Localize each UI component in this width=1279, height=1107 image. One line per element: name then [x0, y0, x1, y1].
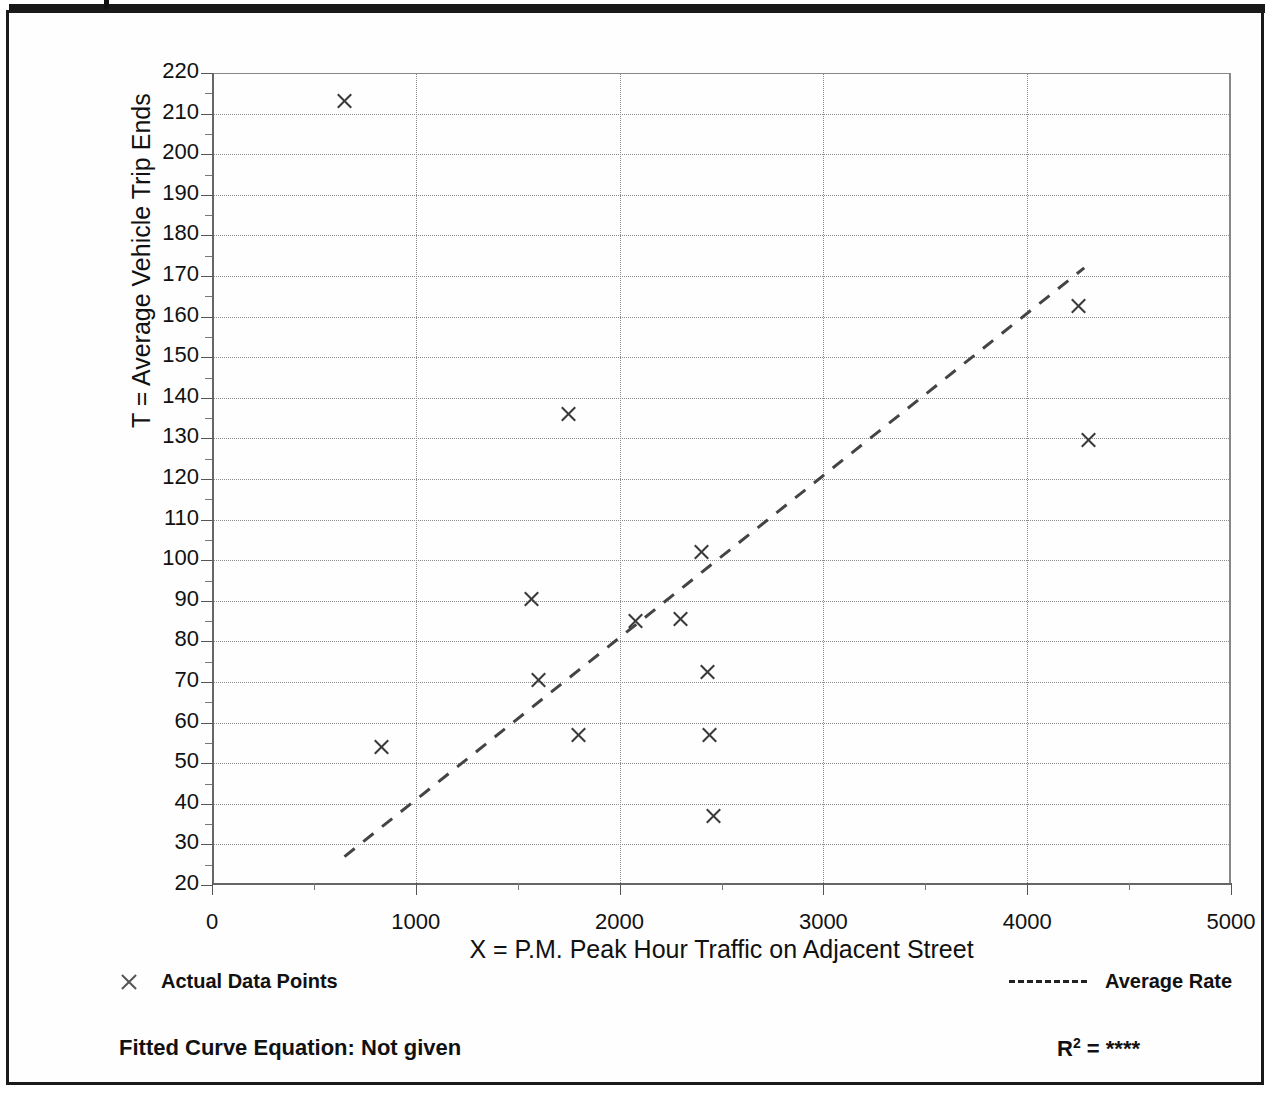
y-axis-tick-label: 120 — [109, 464, 199, 490]
y-axis-minor-tick — [205, 296, 212, 297]
gridline-horizontal — [212, 641, 1231, 642]
x-marker-icon — [119, 972, 139, 992]
y-axis-minor-tick — [205, 824, 212, 825]
fitted-curve-equation-text: Fitted Curve Equation: Not given — [119, 1035, 461, 1061]
gridline-horizontal — [212, 195, 1231, 196]
y-axis-tick — [201, 357, 212, 358]
data-point-marker — [1069, 297, 1088, 316]
gridline-horizontal — [212, 479, 1231, 480]
y-axis-minor-tick — [205, 134, 212, 135]
y-axis-tick — [201, 398, 212, 399]
y-axis-tick — [201, 154, 212, 155]
y-axis-minor-tick — [205, 378, 212, 379]
y-axis-tick-label: 220 — [109, 58, 199, 84]
gridline-horizontal — [212, 682, 1231, 683]
gridline-vertical — [1027, 73, 1028, 885]
legend-entry-average-rate[interactable]: Average Rate — [1009, 970, 1232, 993]
y-axis-tick-label: 100 — [109, 545, 199, 571]
x-axis-minor-tick — [722, 883, 723, 890]
y-axis-tick — [201, 804, 212, 805]
y-axis-minor-tick — [205, 215, 212, 216]
y-axis-minor-tick — [205, 337, 212, 338]
x-axis-minor-tick — [925, 883, 926, 890]
y-axis-tick — [201, 235, 212, 236]
y-axis-tick-label: 50 — [109, 748, 199, 774]
trendline-segment — [344, 268, 1084, 857]
y-axis-tick — [201, 114, 212, 115]
y-axis-tick — [201, 276, 212, 277]
y-axis-tick — [201, 844, 212, 845]
x-axis-tick — [416, 883, 417, 895]
r-squared-value: = **** — [1087, 1036, 1140, 1061]
x-axis-minor-tick — [1129, 883, 1130, 890]
axis-top-spine — [212, 73, 1231, 74]
data-point-marker — [529, 670, 548, 689]
x-axis-tick-label: 3000 — [763, 909, 883, 935]
y-axis-tick — [201, 723, 212, 724]
y-axis-title: T = Average Vehicle Trip Ends — [127, 93, 156, 428]
x-axis-tick-label: 2000 — [560, 909, 680, 935]
y-axis-tick-label: 90 — [109, 586, 199, 612]
y-axis-minor-tick — [205, 662, 212, 663]
legend-entry-data-points[interactable]: Actual Data Points — [119, 970, 338, 993]
y-axis-tick-label: 20 — [109, 870, 199, 896]
y-axis-minor-tick — [205, 499, 212, 500]
r-squared-symbol: R — [1057, 1036, 1073, 1061]
y-axis-minor-tick — [205, 175, 212, 176]
y-axis-tick — [201, 73, 212, 74]
y-axis-tick — [201, 560, 212, 561]
y-axis-minor-tick — [205, 621, 212, 622]
y-axis-tick-label: 80 — [109, 626, 199, 652]
page-top-mark — [104, 0, 109, 9]
y-axis-minor-tick — [205, 256, 212, 257]
y-axis-tick-label: 110 — [109, 505, 199, 531]
gridline-horizontal — [212, 520, 1231, 521]
y-axis-tick — [201, 438, 212, 439]
gridline-horizontal — [212, 114, 1231, 115]
y-axis-tick — [201, 763, 212, 764]
y-axis-tick — [201, 520, 212, 521]
data-point-marker — [569, 725, 588, 744]
plot-area: 2030405060708090100110120130140150160170… — [212, 73, 1231, 885]
y-axis-tick — [201, 885, 212, 886]
r-squared-exponent: 2 — [1073, 1035, 1081, 1051]
x-axis-tick — [1027, 883, 1028, 895]
data-point-marker — [1079, 431, 1098, 450]
y-axis-minor-tick — [205, 459, 212, 460]
gridline-horizontal — [212, 276, 1231, 277]
y-axis-minor-tick — [205, 418, 212, 419]
y-axis-minor-tick — [205, 93, 212, 94]
data-point-marker — [671, 610, 690, 629]
data-point-marker — [698, 662, 717, 681]
data-point-marker — [704, 806, 723, 825]
gridline-horizontal — [212, 398, 1231, 399]
x-axis-tick-label: 4000 — [967, 909, 1087, 935]
data-point-marker — [522, 589, 541, 608]
x-axis-tick-label: 1000 — [356, 909, 476, 935]
data-point-marker — [335, 92, 354, 111]
x-axis-minor-tick — [314, 883, 315, 890]
y-axis-minor-tick — [205, 702, 212, 703]
axis-right-spine — [1229, 73, 1231, 885]
data-point-marker — [372, 737, 391, 756]
data-point-marker — [692, 543, 711, 562]
y-axis-spine — [212, 73, 214, 885]
y-axis-minor-tick — [205, 743, 212, 744]
x-axis-title: X = P.M. Peak Hour Traffic on Adjacent S… — [212, 935, 1231, 964]
x-axis-tick — [620, 883, 621, 895]
x-axis-tick-label: 0 — [152, 909, 272, 935]
y-axis-minor-tick — [205, 540, 212, 541]
legend-label-data-points: Actual Data Points — [161, 970, 338, 993]
y-axis-tick-label: 30 — [109, 829, 199, 855]
gridline-horizontal — [212, 804, 1231, 805]
gridline-horizontal — [212, 317, 1231, 318]
y-axis-tick-label: 40 — [109, 789, 199, 815]
gridline-horizontal — [212, 154, 1231, 155]
gridline-horizontal — [212, 601, 1231, 602]
gridline-horizontal — [212, 723, 1231, 724]
y-axis-tick — [201, 601, 212, 602]
data-point-marker — [626, 612, 645, 631]
r-squared-annotation: R2 = **** — [1057, 1035, 1140, 1062]
x-axis-tick-label: 5000 — [1171, 909, 1279, 935]
y-axis-tick — [201, 195, 212, 196]
